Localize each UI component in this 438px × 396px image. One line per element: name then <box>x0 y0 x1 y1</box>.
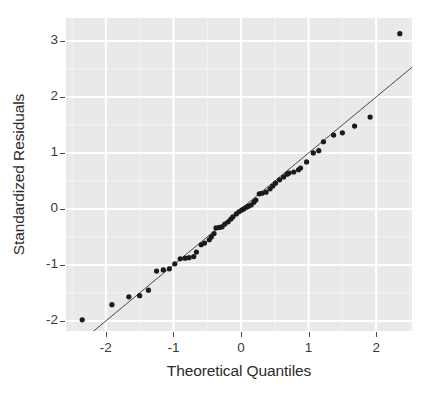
x-tick-label: -1 <box>158 340 188 355</box>
x-axis-title: Theoretical Quantiles <box>66 362 412 380</box>
x-tick-mark <box>173 332 174 337</box>
grid-major-lines <box>66 18 412 331</box>
qq-plot-figure: Standardized Residuals -2-10123 -2-1012 … <box>0 0 438 396</box>
y-tick-label: 1 <box>34 146 58 158</box>
y-tick-mark <box>60 153 65 154</box>
y-tick-label: 2 <box>34 90 58 102</box>
y-tick-label: 3 <box>34 34 58 46</box>
x-tick-label: 1 <box>294 340 324 355</box>
reference-line <box>91 67 412 331</box>
y-axis-title: Standardized Residuals <box>10 18 32 331</box>
grid-minor-lines <box>66 18 412 331</box>
plot-panel <box>66 18 412 331</box>
y-tick-label: 0 <box>34 202 58 214</box>
y-tick-label: -1 <box>34 258 58 270</box>
x-tick-mark <box>309 332 310 337</box>
x-tick-mark <box>376 332 377 337</box>
x-tick-label: 0 <box>226 340 256 355</box>
y-tick-mark <box>60 321 65 322</box>
y-tick-mark <box>60 265 65 266</box>
y-tick-mark <box>60 41 65 42</box>
plot-canvas <box>66 18 412 331</box>
y-tick-label: -2 <box>34 314 58 326</box>
x-tick-mark <box>241 332 242 337</box>
y-tick-mark <box>60 209 65 210</box>
y-tick-mark <box>60 97 65 98</box>
x-tick-label: -2 <box>91 340 121 355</box>
x-tick-label: 2 <box>361 340 391 355</box>
x-tick-mark <box>106 332 107 337</box>
